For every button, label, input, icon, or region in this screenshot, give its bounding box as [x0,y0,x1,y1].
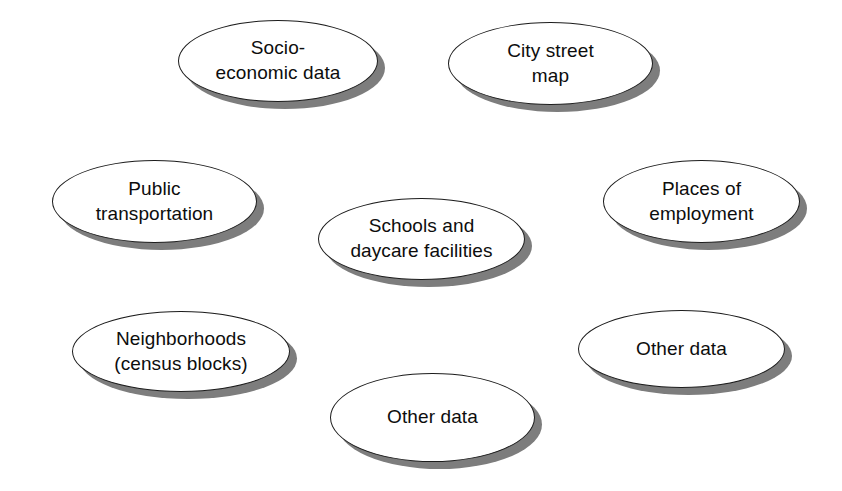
node-label-public-transportation: Public transportation [90,177,220,226]
node-label-other-data-right: Other data [630,337,733,362]
ellipse-node-schools-and-daycare-facilities[interactable]: Schools and daycare facilities [318,198,525,280]
node-label-neighborhoods-census-blocks: Neighborhoods (census blocks) [108,327,254,376]
ellipse-node-other-data-bottom[interactable]: Other data [330,373,535,462]
diagram-canvas: Socio- economic dataCity street mapPubli… [0,0,842,491]
ellipse-node-other-data-right[interactable]: Other data [578,310,785,388]
node-label-other-data-bottom: Other data [381,405,484,430]
ellipse-node-public-transportation[interactable]: Public transportation [52,160,257,243]
ellipse-node-socio-economic-data[interactable]: Socio- economic data [178,20,378,102]
ellipse-node-neighborhoods-census-blocks[interactable]: Neighborhoods (census blocks) [72,311,290,392]
node-label-city-street-map: City street map [501,39,600,88]
node-label-schools-and-daycare-facilities: Schools and daycare facilities [344,214,498,263]
ellipse-node-places-of-employment[interactable]: Places of employment [603,160,800,243]
node-label-socio-economic-data: Socio- economic data [210,36,347,85]
node-label-places-of-employment: Places of employment [643,177,760,226]
ellipse-node-city-street-map[interactable]: City street map [448,22,653,105]
